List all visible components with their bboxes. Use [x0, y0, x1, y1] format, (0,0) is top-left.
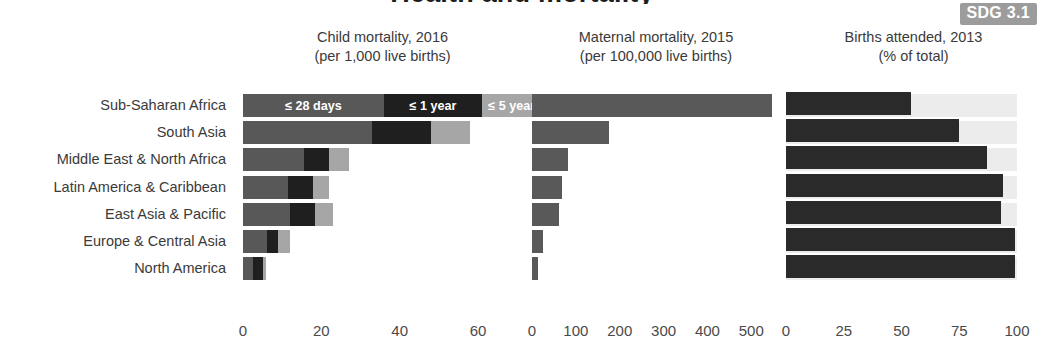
bar-segment [267, 230, 279, 253]
bar-row [532, 92, 782, 119]
plot-births-attended [786, 92, 1019, 282]
region-label: South Asia [0, 119, 232, 146]
bar-row [786, 255, 1019, 282]
maternal-mortality-bar[interactable] [532, 121, 609, 144]
axis-tick-label: 20 [313, 322, 330, 339]
births-attended-bar[interactable] [786, 228, 1015, 251]
bar-row [786, 201, 1019, 228]
panel-title-line2: (per 1,000 live births) [240, 47, 525, 66]
axis-tick-label: 200 [607, 322, 632, 339]
x-axis-child-mortality: 0204060 [243, 322, 533, 346]
bar-segment [253, 257, 263, 280]
bar-segment [315, 203, 333, 226]
bar-row [786, 119, 1019, 146]
panel-title-line2: (per 100,000 live births) [527, 47, 785, 66]
births-attended-bar[interactable] [786, 255, 1015, 278]
bar-segment [278, 230, 290, 253]
axis-tick-label: 60 [470, 322, 487, 339]
stacked-bar[interactable] [243, 148, 349, 171]
axis-tick-label: 500 [739, 322, 764, 339]
stacked-bar[interactable] [243, 203, 333, 226]
bar-row [243, 174, 525, 201]
bar-segment [304, 148, 329, 171]
panel-title-line1: Births attended, 2013 [845, 29, 983, 45]
stacked-bar[interactable] [243, 257, 267, 280]
bar-segment [431, 121, 470, 144]
bar-segment [372, 121, 431, 144]
axis-tick-label: 100 [1004, 322, 1029, 339]
bar-row [786, 92, 1019, 119]
region-label: Latin America & Caribbean [0, 174, 232, 201]
figure-sdg-3-1: Health and mortality SDG 3.1 Child morta… [0, 0, 1044, 357]
region-label: East Asia & Pacific [0, 201, 232, 228]
panel-header-child-mortality: Child mortality, 2016 (per 1,000 live bi… [240, 28, 525, 66]
axis-tick-label: 50 [893, 322, 910, 339]
panel-header-births-attended: Births attended, 2013 (% of total) [786, 28, 1041, 66]
stacked-bar[interactable] [243, 176, 329, 199]
bar-row [786, 174, 1019, 201]
births-attended-bar[interactable] [786, 119, 959, 142]
bar-row [532, 174, 782, 201]
bar-segment [243, 148, 304, 171]
maternal-mortality-bar[interactable] [532, 203, 559, 226]
bar-row [532, 228, 782, 255]
bar-row [532, 255, 782, 282]
axis-tick-label: 0 [528, 322, 536, 339]
bar-segment [263, 257, 267, 280]
births-attended-bar[interactable] [786, 146, 987, 169]
bar-segment [290, 203, 315, 226]
births-attended-bar[interactable] [786, 201, 1001, 224]
region-label: Middle East & North Africa [0, 146, 232, 173]
births-attended-bar[interactable] [786, 92, 911, 115]
axis-tick-label: 40 [391, 322, 408, 339]
sdg-badge: SDG 3.1 [960, 3, 1037, 25]
panel-title-line2: (% of total) [786, 47, 1041, 66]
bar-segment: ≤ 28 days [243, 94, 384, 117]
plot-maternal-mortality [532, 92, 782, 282]
figure-title-cutoff: Health and mortality [0, 0, 1044, 4]
bar-row [786, 146, 1019, 173]
bar-row [532, 146, 782, 173]
panel-title-line1: Child mortality, 2016 [317, 29, 448, 45]
plot-child-mortality: ≤ 28 days≤ 1 year≤ 5 years [243, 92, 525, 282]
axis-tick-label: 300 [651, 322, 676, 339]
stacked-bar[interactable] [243, 230, 290, 253]
region-label: Europe & Central Asia [0, 228, 232, 255]
panel-title-line1: Maternal mortality, 2015 [579, 29, 733, 45]
bar-segment [243, 203, 290, 226]
x-axis-births-attended: 0255075100 [786, 322, 1031, 346]
bar-segment [243, 230, 267, 253]
region-label: Sub-Saharan Africa [0, 92, 232, 119]
region-label-column: Sub-Saharan AfricaSouth AsiaMiddle East … [0, 92, 232, 282]
stacked-bar[interactable] [243, 121, 470, 144]
maternal-mortality-bar[interactable] [532, 176, 562, 199]
maternal-mortality-bar[interactable] [532, 94, 772, 117]
bar-row [243, 146, 525, 173]
births-attended-bar[interactable] [786, 174, 1003, 197]
x-axis-maternal-mortality: 0100200300400500 [532, 322, 787, 346]
bar-row [786, 228, 1019, 255]
bar-row [243, 228, 525, 255]
bar-segment: ≤ 1 year [384, 94, 482, 117]
bar-segment [329, 148, 349, 171]
bar-segment [243, 257, 253, 280]
axis-tick-label: 25 [835, 322, 852, 339]
bar-segment [288, 176, 313, 199]
panel-header-maternal-mortality: Maternal mortality, 2015 (per 100,000 li… [527, 28, 785, 66]
maternal-mortality-bar[interactable] [532, 148, 568, 171]
bar-segment [313, 176, 329, 199]
bar-row [243, 201, 525, 228]
bar-segment [243, 176, 288, 199]
bar-row [243, 119, 525, 146]
stacked-bar[interactable]: ≤ 28 days≤ 1 year≤ 5 years [243, 94, 549, 117]
maternal-mortality-bar[interactable] [532, 230, 543, 253]
axis-tick-label: 100 [563, 322, 588, 339]
axis-tick-label: 0 [239, 322, 247, 339]
bar-segment [243, 121, 372, 144]
maternal-mortality-bar[interactable] [532, 257, 538, 280]
bar-row [532, 119, 782, 146]
axis-tick-label: 75 [951, 322, 968, 339]
bar-row: ≤ 28 days≤ 1 year≤ 5 years [243, 92, 525, 119]
axis-tick-label: 0 [782, 322, 790, 339]
region-label: North America [0, 255, 232, 282]
